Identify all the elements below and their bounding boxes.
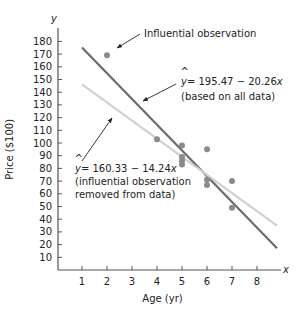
- x-tick-label: 4: [154, 276, 160, 287]
- hat-symbol: ^: [75, 153, 83, 164]
- regression-chart: yx10203040506070809010011012013014015016…: [0, 0, 305, 315]
- x-tick-label: 3: [129, 276, 135, 287]
- equation-all-note: (based on all data): [181, 91, 275, 102]
- y-tick-label: 160: [33, 61, 52, 72]
- y-axis-symbol: y: [50, 13, 58, 24]
- x-tick-label: 5: [179, 276, 185, 287]
- influential-label: Influential observation: [144, 28, 256, 39]
- y-tick-label: 30: [39, 226, 52, 237]
- y-tick-label: 140: [33, 87, 52, 98]
- equation-reduced-note-1: (influential observation: [75, 176, 191, 187]
- y-tick-label: 40: [39, 214, 52, 225]
- y-tick-label: 100: [33, 138, 52, 149]
- x-tick-label: 8: [254, 276, 260, 287]
- y-tick-label: 110: [33, 125, 52, 136]
- x-axis-label: Age (yr): [142, 293, 182, 304]
- data-point: [179, 143, 185, 149]
- x-tick-label: 6: [204, 276, 210, 287]
- equation-reduced-arrow: [82, 118, 112, 161]
- y-tick-label: 10: [39, 252, 52, 263]
- hat-symbol: ^: [181, 66, 189, 77]
- x-tick-label: 2: [104, 276, 110, 287]
- y-tick-label: 170: [33, 49, 52, 60]
- data-point: [154, 136, 160, 142]
- equation-reduced-data: y= 160.33 − 14.24x: [74, 163, 177, 174]
- influential-point: [104, 52, 110, 58]
- influential-arrow: [117, 34, 140, 48]
- y-tick-label: 180: [33, 36, 52, 47]
- data-point: [204, 146, 210, 152]
- y-tick-label: 150: [33, 74, 52, 85]
- equation-all-data: y= 195.47 − 20.26x: [180, 76, 283, 87]
- data-point: [229, 205, 235, 211]
- y-tick-label: 60: [39, 188, 52, 199]
- y-axis-label: Price ($100): [4, 119, 15, 180]
- data-point: [204, 182, 210, 188]
- regression-line-reduced-data: [82, 84, 277, 225]
- y-tick-label: 90: [39, 150, 52, 161]
- x-tick-label: 7: [229, 276, 235, 287]
- y-tick-label: 130: [33, 99, 52, 110]
- y-tick-label: 80: [39, 163, 52, 174]
- y-tick-label: 120: [33, 112, 52, 123]
- x-axis-symbol: x: [282, 264, 289, 275]
- data-point: [229, 178, 235, 184]
- equation-all-arrow: [143, 84, 176, 101]
- x-tick-label: 1: [79, 276, 85, 287]
- y-tick-label: 50: [39, 201, 52, 212]
- equation-reduced-note-2: removed from data): [75, 189, 175, 200]
- y-tick-label: 70: [39, 176, 52, 187]
- data-point: [179, 162, 185, 168]
- y-tick-label: 20: [39, 239, 52, 250]
